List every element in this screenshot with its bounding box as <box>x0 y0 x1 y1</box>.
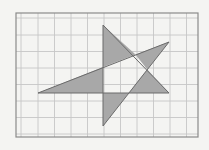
shaded-region <box>103 25 136 67</box>
shaded-region <box>136 42 170 70</box>
shaded-region <box>129 70 169 93</box>
grid-diagram <box>0 0 209 150</box>
